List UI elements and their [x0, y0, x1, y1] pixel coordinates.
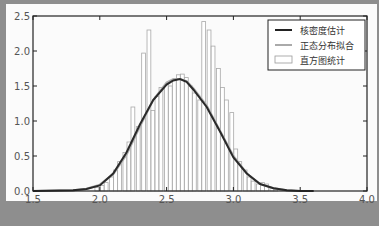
y-tick-label: 1.5	[14, 81, 30, 92]
histogram-bar	[164, 85, 168, 191]
x-tick-label: 3.5	[292, 194, 308, 205]
histogram-bar	[168, 86, 172, 191]
y-tick-label: 2.0	[14, 46, 30, 57]
y-tick-label: 0.5	[14, 151, 30, 162]
histogram-bars	[95, 22, 278, 191]
x-tick-label: 2.0	[92, 194, 108, 205]
histogram-bar	[184, 78, 188, 191]
histogram-bar	[192, 93, 196, 191]
density-histogram-chart: 1.52.02.53.03.54.0 0.00.51.01.52.02.5 核密…	[0, 0, 379, 226]
legend-normal-label: 正态分布拟合	[300, 40, 354, 51]
histogram-bar	[188, 86, 192, 191]
x-tick-label: 2.5	[159, 194, 175, 205]
histogram-bar	[251, 181, 255, 191]
histogram-bar	[155, 97, 159, 192]
legend-histogram-label: 直方图统计	[300, 55, 345, 66]
histogram-bar	[136, 127, 140, 191]
histogram-bar	[151, 111, 155, 192]
y-tick-label: 1.0	[14, 116, 30, 127]
legend-histogram-swatch	[275, 56, 292, 63]
histogram-bar	[131, 107, 135, 191]
x-tick-label: 3.0	[225, 194, 241, 205]
legend: 核密度估计 正态分布拟合 直方图统计	[268, 20, 365, 70]
y-tick-label: 0.0	[14, 186, 30, 197]
histogram-bar	[104, 183, 108, 191]
histogram-bar	[100, 185, 104, 191]
histogram-bar	[234, 149, 238, 191]
histogram-bar	[159, 87, 163, 191]
histogram-bar	[110, 177, 114, 191]
histogram-bar	[247, 177, 251, 191]
legend-kde-label: 核密度估计	[300, 25, 345, 36]
histogram-bar	[180, 74, 184, 191]
x-tick-label: 4.0	[359, 194, 375, 205]
histogram-bar	[198, 100, 202, 191]
histogram-bar	[172, 80, 176, 191]
y-tick-label: 2.5	[14, 11, 30, 22]
histogram-bar	[176, 75, 180, 191]
